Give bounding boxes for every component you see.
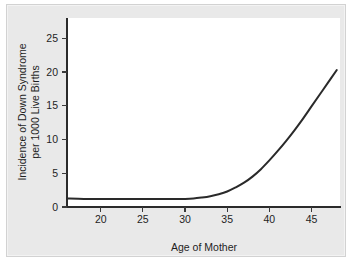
x-tick-label: 20	[95, 213, 107, 225]
y-tick-label: 5	[52, 167, 58, 179]
x-axis-title: Age of Mother	[171, 241, 237, 253]
x-tick-label: 40	[263, 213, 275, 225]
y-axis-title-line2: per 1000 Live Births	[29, 65, 41, 158]
x-tick-label: 30	[179, 213, 191, 225]
plot-area-background	[67, 18, 340, 207]
y-tick-label: 0	[52, 201, 58, 213]
x-tick-label: 35	[221, 213, 233, 225]
y-axis-title-line1: Incidence of Down Syndrome	[16, 43, 28, 180]
y-tick-label: 10	[46, 133, 58, 145]
y-tick-label: 15	[46, 99, 58, 111]
y-tick-label: 20	[46, 66, 58, 78]
x-axis-ticks: 202530354045	[95, 207, 318, 225]
x-tick-label: 25	[137, 213, 149, 225]
y-tick-label: 25	[46, 32, 58, 44]
chart-canvas: 0510152025 202530354045 Incidence of Dow…	[0, 0, 358, 267]
y-axis-ticks: 0510152025	[46, 32, 67, 213]
x-tick-label: 45	[306, 213, 318, 225]
figure-root: 0510152025 202530354045 Incidence of Dow…	[0, 0, 358, 267]
